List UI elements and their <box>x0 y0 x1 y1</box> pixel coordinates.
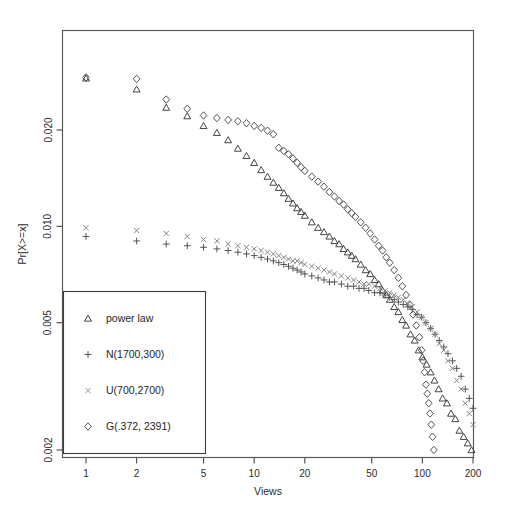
chart-page: 125102050100200 0.0020.0050.0100.020 pow… <box>0 0 506 517</box>
x-tick-label: 1 <box>83 468 89 479</box>
y-tick-label: 0.005 <box>43 310 54 335</box>
x-axis-title: Views <box>254 485 282 497</box>
x-tick-label: 100 <box>414 468 431 479</box>
x-tick-label: 2 <box>134 468 140 479</box>
y-tick-label: 0.020 <box>43 117 54 142</box>
y-tick-label: 0.002 <box>43 437 54 462</box>
x-tick-label: 10 <box>249 468 261 479</box>
x-tick-label: 5 <box>201 468 207 479</box>
x-tick-label: 50 <box>366 468 378 479</box>
y-tick-label: 0.010 <box>43 213 54 238</box>
legend-label: power law <box>106 312 154 324</box>
plot-background <box>0 0 506 517</box>
x-tick-label: 200 <box>465 468 482 479</box>
legend-label: N(1700,300) <box>106 348 164 360</box>
x-tick-label: 20 <box>299 468 311 479</box>
ccdf-log-log-scatter-plot: 125102050100200 0.0020.0050.0100.020 pow… <box>0 0 506 517</box>
legend-label: G(.372, 2391) <box>106 420 171 432</box>
y-axis-title: Pr[X>=x] <box>16 223 28 264</box>
legend-label: U(700,2700) <box>106 384 164 396</box>
